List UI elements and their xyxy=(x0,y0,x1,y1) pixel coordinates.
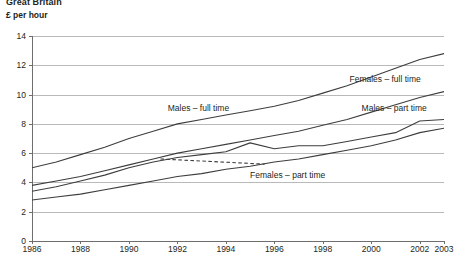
series-annotation-label: Males – part time xyxy=(362,104,427,113)
series-annotation-label: Females – part time xyxy=(250,171,325,180)
y-tick-label: 6 xyxy=(0,149,26,158)
x-tick-label: 1998 xyxy=(313,245,332,254)
y-tick-label: 14 xyxy=(0,32,26,41)
series-annotation-label: Males – full time xyxy=(168,104,229,113)
y-tick-label: 2 xyxy=(0,208,26,217)
x-tick-mark xyxy=(444,241,445,244)
series-line xyxy=(32,119,444,191)
series-line xyxy=(32,128,444,200)
x-tick-label: 1986 xyxy=(23,245,42,254)
x-tick-label: 1990 xyxy=(119,245,138,254)
leader-line xyxy=(160,159,264,164)
plot-area xyxy=(32,36,444,241)
y-tick-label: 8 xyxy=(0,120,26,129)
x-tick-label: 2003 xyxy=(435,245,454,254)
x-tick-label: 1992 xyxy=(168,245,187,254)
y-tick-label: 12 xyxy=(0,61,26,70)
x-tick-label: 2000 xyxy=(362,245,381,254)
y-tick-label: 10 xyxy=(0,91,26,100)
x-tick-label: 1988 xyxy=(71,245,90,254)
x-tick-label: 2002 xyxy=(410,245,429,254)
y-tick-label: 4 xyxy=(0,178,26,187)
x-axis-line xyxy=(32,241,444,242)
chart-unit-label: £ per hour xyxy=(6,10,48,20)
chart-region-title: Great Britain xyxy=(6,0,62,7)
x-tick-label: 1996 xyxy=(265,245,284,254)
series-annotation-label: Females – full time xyxy=(349,75,420,84)
line-chart: Great Britain £ per hour 02468101214 198… xyxy=(0,0,454,265)
x-tick-label: 1994 xyxy=(216,245,235,254)
